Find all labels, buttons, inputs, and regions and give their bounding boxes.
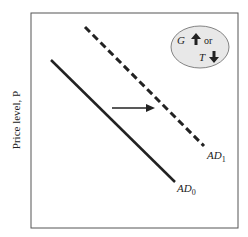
or-label: or <box>204 35 213 46</box>
g-label: G <box>177 34 185 46</box>
y-axis-label: Price level, P <box>10 91 22 149</box>
shift-arrow-icon <box>112 104 155 112</box>
policy-callout: G or T <box>171 26 229 68</box>
ad0-label: AD0 <box>176 182 196 197</box>
ad1-label: AD1 <box>206 149 226 164</box>
ad-shift-diagram: Price level, P AD1 AD0 G or T <box>0 0 248 237</box>
t-label: T <box>199 51 206 63</box>
ad0-curve <box>51 60 175 182</box>
